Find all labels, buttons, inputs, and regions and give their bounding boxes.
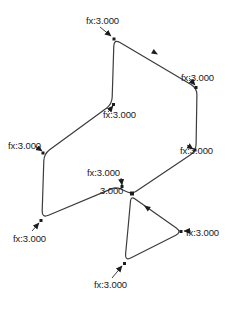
force-label-right-upper: fx:3.000: [181, 72, 214, 83]
node-marker[interactable]: [112, 103, 115, 106]
force-label-right-lower: fx:3.000: [180, 145, 213, 156]
force-label-left-middle: fx:3.000: [103, 109, 136, 120]
leader-arrow: [100, 27, 111, 36]
force-label-triangle-bottom: fx:3.000: [94, 279, 127, 290]
node-marker[interactable]: [180, 230, 183, 233]
leader-arrow: [121, 178, 122, 185]
triangle-loop-path[interactable]: [126, 198, 179, 259]
force-label-left-lower: fx:3.000: [13, 233, 46, 244]
node-markers: [40, 38, 198, 266]
node-marker[interactable]: [42, 152, 45, 155]
force-label-triangle-right: fx:3.000: [186, 227, 219, 238]
node-marker[interactable]: [130, 192, 134, 196]
leader-arrow: [32, 223, 39, 231]
node-marker[interactable]: [113, 38, 116, 41]
force-label-left-upper: fx:3.000: [8, 140, 41, 151]
node-marker[interactable]: [195, 86, 198, 89]
node-marker[interactable]: [40, 219, 43, 222]
force-label-center: fx:3.000: [87, 167, 120, 178]
edge-direction-arrow: [151, 49, 158, 55]
edge-direction-arrow: [144, 206, 151, 212]
force-label-top: fx:3.000: [86, 15, 119, 26]
node-marker[interactable]: [123, 262, 126, 265]
force-label-junction: 3.000: [100, 185, 123, 196]
diagram-canvas[interactable]: fx:3.000 fx:3.000 fx:3.000 fx:3.000 fx:3…: [0, 0, 239, 310]
leader-arrow: [112, 266, 122, 278]
